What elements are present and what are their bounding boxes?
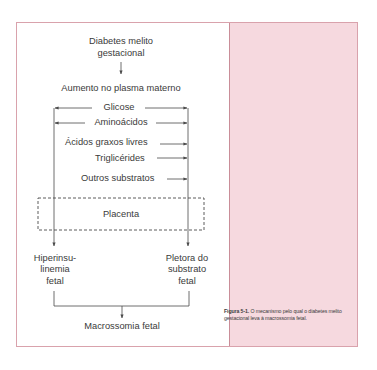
node-placenta: Placenta [90, 209, 152, 220]
node-hyperinsulinemia-2: linemia [26, 264, 84, 275]
figure-caption: Figura 5-1. O mecanismo pelo qual o diab… [224, 308, 350, 323]
substrate-glicose: Glicose [93, 102, 145, 113]
substrate-aminoacidos: Aminoácidos [86, 117, 156, 128]
node-substrate-plethora-3: fetal [156, 276, 218, 287]
node-hyperinsulinemia-3: fetal [26, 276, 84, 287]
node-diabetes-line2: gestacional [71, 48, 171, 59]
substrate-triglicerides: Triglicérides [95, 153, 145, 164]
node-diabetes-line1: Diabetes melito [71, 36, 171, 47]
node-substrate-plethora-2: substrato [156, 264, 218, 275]
node-substrate-plethora-1: Pletora do [156, 253, 218, 264]
node-hyperinsulinemia-1: Hiperinsu- [26, 253, 84, 264]
node-macrosomia: Macrossomia fetal [72, 321, 172, 332]
substrate-acidos-graxos: Ácidos graxos livres [65, 137, 148, 148]
caption-label: Figura 5-1. [224, 308, 249, 314]
node-increase: Aumento no plasma materno [46, 83, 196, 94]
substrate-outros: Outros substratos [81, 173, 154, 184]
